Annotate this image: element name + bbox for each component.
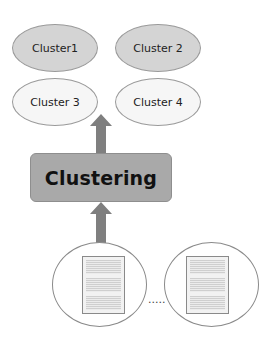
document-group-1 bbox=[52, 242, 147, 327]
cluster-node-1: Cluster1 bbox=[12, 24, 98, 72]
cluster-node-4: Cluster 4 bbox=[115, 78, 201, 126]
document-icon bbox=[82, 256, 125, 314]
document-group-2 bbox=[164, 242, 259, 327]
cluster-label: Cluster1 bbox=[32, 42, 78, 55]
cluster-label: Cluster 2 bbox=[133, 42, 183, 55]
cluster-label: Cluster 3 bbox=[30, 96, 80, 109]
arrow-up-icon bbox=[90, 114, 112, 154]
document-icon bbox=[186, 256, 229, 314]
ellipsis-more-documents: ..... bbox=[148, 293, 165, 306]
cluster-label: Cluster 4 bbox=[133, 96, 183, 109]
process-label: Clustering bbox=[45, 167, 157, 189]
clustering-process-box: Clustering bbox=[30, 153, 172, 202]
cluster-node-2: Cluster 2 bbox=[115, 24, 201, 72]
cluster-node-3: Cluster 3 bbox=[12, 78, 98, 126]
arrow-up-icon bbox=[90, 202, 112, 244]
